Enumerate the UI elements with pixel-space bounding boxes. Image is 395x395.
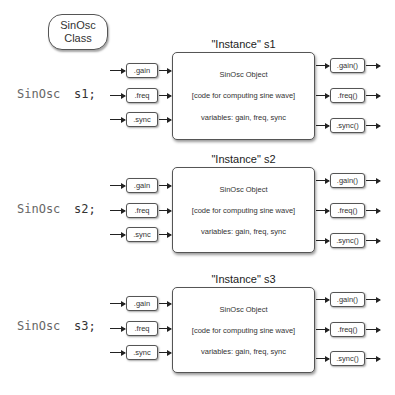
class-bubble: SinOsc Class bbox=[48, 14, 108, 50]
output-arrow-icon bbox=[366, 299, 380, 300]
input-arrow-icon bbox=[159, 185, 171, 186]
object-title: SinOsc Object bbox=[173, 185, 314, 194]
output-arrow-icon bbox=[366, 240, 380, 241]
output-sync: .sync() bbox=[330, 233, 365, 248]
output-arrow-icon bbox=[366, 210, 380, 211]
instance-s2: "Instance" s2 SinOsc s2; .gain .freq .sy… bbox=[0, 167, 395, 287]
instance-title: "Instance" s2 bbox=[172, 153, 315, 165]
output-sync: .sync() bbox=[330, 351, 365, 366]
input-sync: .sync bbox=[126, 112, 158, 127]
instance-title: "Instance" s3 bbox=[172, 273, 315, 285]
object-variables: variables: gain, freq, sync bbox=[173, 227, 314, 236]
input-arrow-icon bbox=[110, 119, 125, 120]
input-arrow-icon bbox=[159, 234, 171, 235]
output-arrow-icon bbox=[316, 95, 329, 96]
object-variables: variables: gain, freq, sync bbox=[173, 113, 314, 122]
input-arrow-icon bbox=[159, 303, 171, 304]
output-arrow-icon bbox=[366, 329, 380, 330]
input-freq: .freq bbox=[126, 321, 158, 336]
output-freq: .freq() bbox=[330, 88, 365, 103]
output-arrow-icon bbox=[316, 299, 329, 300]
input-arrow-icon bbox=[110, 303, 125, 304]
object-box: SinOsc Object [code for computing sine w… bbox=[172, 287, 315, 373]
declaration-class: SinOsc bbox=[17, 87, 60, 101]
output-arrow-icon bbox=[366, 95, 380, 96]
output-arrow-icon bbox=[316, 65, 329, 66]
input-freq: .freq bbox=[126, 203, 158, 218]
output-arrow-icon bbox=[316, 329, 329, 330]
output-arrow-icon bbox=[316, 180, 329, 181]
declaration-var: s3; bbox=[74, 319, 96, 333]
declaration-var: s2; bbox=[74, 202, 96, 216]
input-arrow-icon bbox=[159, 352, 171, 353]
output-freq: .freq() bbox=[330, 203, 365, 218]
declaration-class: SinOsc bbox=[17, 319, 60, 333]
input-gain: .gain bbox=[126, 296, 158, 311]
output-arrow-icon bbox=[316, 240, 329, 241]
declaration-var: s1; bbox=[74, 87, 96, 101]
output-arrow-icon bbox=[316, 358, 329, 359]
output-arrow-icon bbox=[316, 125, 329, 126]
input-arrow-icon bbox=[159, 95, 171, 96]
input-gain: .gain bbox=[126, 63, 158, 78]
input-sync: .sync bbox=[126, 345, 158, 360]
input-arrow-icon bbox=[159, 119, 171, 120]
object-code: [code for computing sine wave] bbox=[173, 326, 314, 335]
input-arrow-icon bbox=[159, 70, 171, 71]
object-code: [code for computing sine wave] bbox=[173, 91, 314, 100]
instance-title: "Instance" s1 bbox=[172, 38, 315, 50]
object-box: SinOsc Object [code for computing sine w… bbox=[172, 167, 315, 253]
output-arrow-icon bbox=[366, 65, 380, 66]
declaration-class: SinOsc bbox=[17, 202, 60, 216]
input-arrow-icon bbox=[159, 210, 171, 211]
class-bubble-label: Class bbox=[49, 32, 107, 45]
output-gain: .gain() bbox=[330, 173, 365, 188]
object-title: SinOsc Object bbox=[173, 70, 314, 79]
input-arrow-icon bbox=[159, 328, 171, 329]
input-arrow-icon bbox=[110, 352, 125, 353]
object-box: SinOsc Object [code for computing sine w… bbox=[172, 52, 315, 140]
output-gain: .gain() bbox=[330, 58, 365, 73]
output-arrow-icon bbox=[366, 358, 380, 359]
output-gain: .gain() bbox=[330, 292, 365, 307]
output-arrow-icon bbox=[366, 180, 380, 181]
input-arrow-icon bbox=[110, 210, 125, 211]
output-freq: .freq() bbox=[330, 322, 365, 337]
instance-s3: "Instance" s3 SinOsc s3; .gain .freq .sy… bbox=[0, 287, 395, 395]
input-arrow-icon bbox=[110, 234, 125, 235]
class-bubble-name: SinOsc bbox=[49, 19, 107, 32]
input-arrow-icon bbox=[110, 328, 125, 329]
output-sync: .sync() bbox=[330, 118, 365, 133]
input-arrow-icon bbox=[110, 185, 125, 186]
input-gain: .gain bbox=[126, 178, 158, 193]
object-title: SinOsc Object bbox=[173, 305, 314, 314]
input-arrow-icon bbox=[110, 70, 125, 71]
object-code: [code for computing sine wave] bbox=[173, 206, 314, 215]
input-freq: .freq bbox=[126, 88, 158, 103]
output-arrow-icon bbox=[316, 210, 329, 211]
input-arrow-icon bbox=[110, 95, 125, 96]
object-variables: variables: gain, freq, sync bbox=[173, 347, 314, 356]
output-arrow-icon bbox=[366, 125, 380, 126]
input-sync: .sync bbox=[126, 227, 158, 242]
